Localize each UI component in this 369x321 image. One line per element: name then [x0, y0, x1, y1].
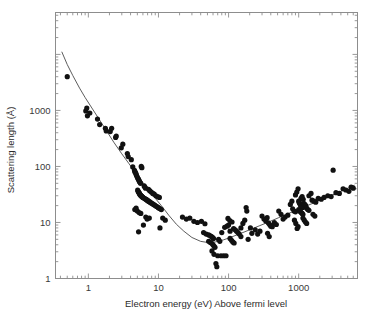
data-point [159, 207, 164, 212]
data-point [267, 234, 272, 239]
data-point [329, 194, 334, 199]
data-point [129, 157, 134, 162]
data-point [157, 195, 162, 200]
data-point [229, 219, 234, 224]
x-tick-label: 1000 [288, 282, 309, 293]
data-point [147, 215, 152, 220]
figure-container: 1101001000 1101001000 Electron energy (e… [0, 0, 369, 321]
data-point [274, 222, 279, 227]
x-axis-label: Electron energy (eV) Above fermi level [125, 298, 287, 309]
data-point [214, 264, 219, 269]
data-point [295, 186, 300, 191]
y-tick-label: 1000 [29, 105, 50, 116]
data-point [265, 215, 270, 220]
data-point [219, 230, 224, 235]
data-point [95, 117, 100, 122]
data-point [351, 186, 356, 191]
data-point [238, 225, 243, 230]
data-point [285, 213, 290, 218]
data-point [87, 110, 92, 115]
data-point [312, 214, 317, 219]
data-point [331, 168, 336, 173]
data-point [244, 208, 249, 213]
x-tick-label: 100 [221, 282, 237, 293]
data-point [97, 122, 102, 127]
scatter-plot: 1101001000 1101001000 Electron energy (e… [0, 0, 369, 321]
data-point [337, 191, 342, 196]
data-point [232, 240, 237, 245]
x-tick-label: 10 [153, 282, 164, 293]
data-point [65, 74, 70, 79]
data-point [217, 239, 222, 244]
data-point [211, 236, 216, 241]
data-point [136, 229, 141, 234]
data-point [304, 221, 309, 226]
data-point [120, 142, 125, 147]
data-point [289, 199, 294, 204]
data-point [295, 224, 300, 229]
data-point [141, 222, 146, 227]
data-point [223, 253, 228, 258]
data-point [238, 234, 243, 239]
y-tick-label: 10 [40, 217, 51, 228]
data-point [306, 208, 311, 213]
data-point [246, 237, 251, 242]
y-tick-label: 1 [45, 273, 50, 284]
data-point [257, 229, 262, 234]
data-point [187, 215, 192, 220]
y-axis-label: Scattering length (Å) [5, 107, 16, 194]
data-point [84, 106, 89, 111]
data-point [308, 191, 313, 196]
y-tick-label: 100 [35, 161, 51, 172]
data-point [202, 221, 207, 226]
data-point [114, 133, 119, 138]
data-point [163, 218, 168, 223]
x-tick-label: 1 [86, 282, 91, 293]
data-point [248, 225, 253, 230]
data-point [139, 165, 144, 170]
data-point [109, 126, 114, 131]
data-point [157, 225, 162, 230]
data-point [242, 218, 247, 223]
data-point [138, 211, 143, 216]
